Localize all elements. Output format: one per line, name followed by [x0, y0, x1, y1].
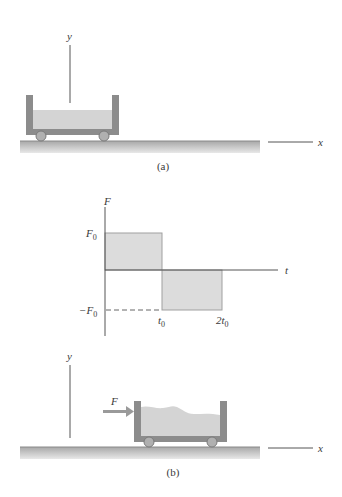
panel-b: y x F (b): [20, 350, 323, 479]
panel-a-x-label: x: [317, 136, 323, 148]
2t0-tick-label: 2t0: [216, 314, 229, 329]
force-label: F: [110, 395, 118, 407]
water-a: [33, 110, 112, 129]
cart-b-wheel-right: [207, 437, 217, 447]
neg-f0-tick-label: −F0: [79, 304, 97, 319]
force-arrow-shaft: [103, 410, 127, 413]
force-time-graph: F t F0 −F0 t0 2t0: [79, 195, 289, 336]
pulse-negative: [162, 270, 222, 310]
cart-a-wheel-left: [36, 131, 46, 141]
panel-a-ground: [20, 141, 260, 153]
cart-b-right-wall: [220, 401, 227, 442]
cart-b: [134, 401, 227, 447]
water-b: [141, 406, 220, 436]
cart-b-left-wall: [134, 401, 141, 442]
panel-b-x-label: x: [317, 442, 323, 454]
cart-a-wheel-right: [99, 131, 109, 141]
cart-b-wheel-left: [144, 437, 154, 447]
cart-a: [26, 95, 119, 141]
t-axis-label: t: [285, 264, 289, 276]
panel-b-y-label: y: [66, 350, 72, 362]
panel-a-caption: (a): [157, 160, 170, 173]
f0-tick-label: F0: [85, 227, 97, 242]
t0-tick-label: t0: [158, 314, 165, 329]
f-axis-label: F: [103, 195, 111, 207]
pulse-positive: [105, 233, 162, 270]
panel-a: y x (a): [20, 30, 323, 173]
panel-b-ground: [20, 447, 260, 459]
panel-a-y-label: y: [66, 30, 72, 42]
force-arrow-head-icon: [126, 406, 134, 417]
diagram-canvas: y x (a) F t F0 −F0: [0, 0, 342, 497]
force-arrow: [103, 406, 134, 417]
panel-b-caption: (b): [167, 466, 180, 479]
